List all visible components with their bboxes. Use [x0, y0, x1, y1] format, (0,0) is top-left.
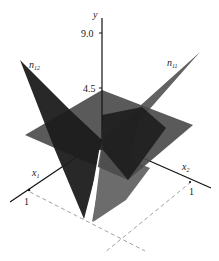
- y-tick-label-9: 9.0: [81, 28, 94, 39]
- x1-axis-label: x1: [31, 167, 39, 179]
- x2-tick-mark: [189, 181, 191, 183]
- surface-label-n12: n12: [29, 59, 40, 71]
- surface-label-n11: n11: [167, 57, 178, 69]
- x2-tick-label: 1: [189, 186, 194, 197]
- plot-svg: y 9.0 4.5 n12 n11 x1 1 x2 1: [0, 0, 219, 261]
- y-axis-label: y: [92, 9, 98, 20]
- x1-tick-label: 1: [24, 196, 29, 207]
- x1-tick-mark: [28, 189, 31, 192]
- diagram-canvas: y 9.0 4.5 n12 n11 x1 1 x2 1: [0, 0, 219, 261]
- x2-axis-label: x2: [181, 161, 189, 173]
- y-tick-label-4-5: 4.5: [83, 83, 96, 94]
